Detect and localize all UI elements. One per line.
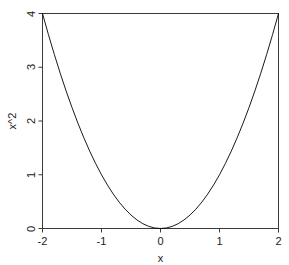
x-tick-label: -1 [97, 236, 107, 247]
plot-canvas [0, 0, 289, 265]
data-line [43, 14, 279, 229]
y-tick-label: 0 [25, 225, 36, 231]
x-axis-ticks [43, 229, 279, 233]
y-tick-label: 2 [25, 118, 36, 124]
x-tick-label: 1 [216, 236, 222, 247]
x-axis-title: x [158, 253, 164, 264]
x-tick-label: 0 [157, 236, 163, 247]
y-axis-ticks [39, 14, 43, 229]
y-tick-label: 3 [25, 64, 36, 70]
y-tick-label: 1 [25, 172, 36, 178]
x-tick-label: 2 [275, 236, 281, 247]
y-axis-title: x^2 [7, 113, 18, 130]
plot-figure: -2-1012 01234 x x^2 [0, 0, 289, 265]
y-tick-label: 4 [25, 10, 36, 16]
data-series-group [43, 14, 279, 229]
plot-frame [43, 14, 279, 229]
x-tick-label: -2 [38, 236, 48, 247]
